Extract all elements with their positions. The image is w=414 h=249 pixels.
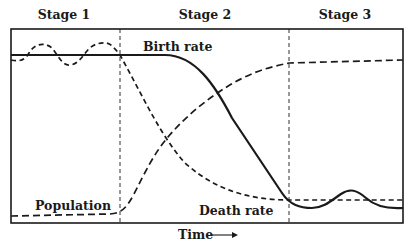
death-rate-curve	[11, 43, 403, 200]
x-axis-label: Time	[178, 227, 213, 242]
birth-rate-label: Birth rate	[143, 39, 213, 54]
population-label: Population	[35, 198, 111, 213]
right-arrow-icon	[212, 232, 238, 238]
death-rate-label: Death rate	[199, 203, 274, 218]
plot-frame	[11, 29, 403, 223]
stage-2-label: Stage 2	[179, 7, 232, 22]
demographic-transition-diagram: Stage 1 Stage 2 Stage 3 Birth rate Popul…	[0, 0, 414, 249]
birth-rate-curve	[11, 55, 403, 208]
stage-1-label: Stage 1	[38, 7, 91, 22]
stage-3-label: Stage 3	[319, 7, 372, 22]
